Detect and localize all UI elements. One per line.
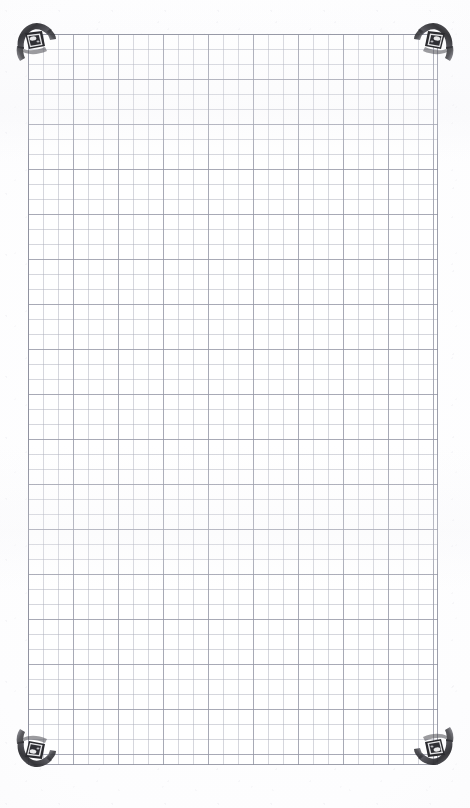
grid-major-lines	[28, 34, 438, 765]
scanned-page	[0, 0, 470, 808]
grid-paper-sheet	[28, 34, 438, 765]
